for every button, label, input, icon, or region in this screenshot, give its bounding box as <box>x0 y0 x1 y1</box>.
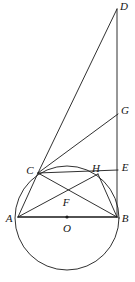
segment-GC <box>38 114 118 173</box>
segment-AH <box>18 174 98 217</box>
segment-AC <box>18 173 38 217</box>
geometry-figure: D G C H E F A B O <box>0 0 135 282</box>
segment-DC <box>38 9 117 173</box>
segment-CE <box>38 170 118 173</box>
geometry-canvas <box>0 0 135 282</box>
point-label-H: H <box>92 163 100 174</box>
point-label-E: E <box>122 162 129 173</box>
point-label-G: G <box>121 105 129 116</box>
center-dot-O <box>65 215 68 218</box>
point-label-B: B <box>122 213 129 224</box>
point-label-F: F <box>63 197 70 208</box>
point-label-D: D <box>120 1 128 12</box>
point-label-A: A <box>6 213 13 224</box>
segment-CB <box>38 173 117 217</box>
point-label-C: C <box>26 165 33 176</box>
point-label-O: O <box>63 223 71 234</box>
